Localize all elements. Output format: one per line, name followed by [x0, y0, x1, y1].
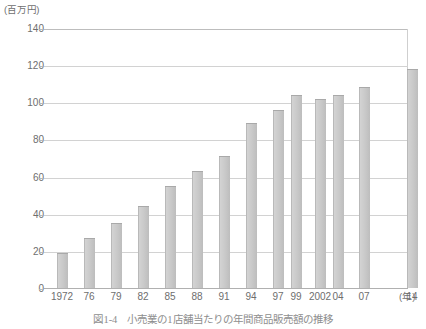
y-axis-tick-label: 0 — [4, 284, 44, 294]
y-axis-unit-label: (百万円) — [4, 2, 39, 16]
bar — [138, 206, 149, 288]
y-axis-tick-label: 40 — [4, 210, 44, 220]
bar — [407, 69, 418, 288]
x-axis-tick-label: 04 — [332, 292, 343, 302]
bar — [219, 156, 230, 288]
bar — [165, 186, 176, 288]
bar — [315, 99, 326, 288]
x-axis-line — [44, 288, 408, 289]
x-axis-tick-label: 88 — [191, 292, 202, 302]
bar — [291, 95, 302, 288]
figure-container: (百万円) 020406080100120140 197276798285889… — [0, 0, 426, 329]
y-axis-tick-label: 100 — [4, 98, 44, 108]
x-axis-tick-label: 94 — [245, 292, 256, 302]
bar — [333, 95, 344, 288]
bar — [192, 171, 203, 288]
bar — [359, 87, 370, 288]
gridline — [44, 103, 408, 104]
x-axis-tick-label: 85 — [164, 292, 175, 302]
y-axis-tick-mark — [39, 66, 43, 67]
x-axis-tick-label: 2002 — [309, 292, 331, 302]
x-axis-unit-label: (年) — [399, 292, 415, 302]
plot-top-border — [44, 29, 408, 30]
bar — [84, 238, 95, 288]
x-axis-tick-label: 91 — [218, 292, 229, 302]
x-axis-tick-label: 07 — [358, 292, 369, 302]
y-axis-tick-mark — [39, 29, 43, 30]
y-axis-tick-label: 20 — [4, 247, 44, 257]
y-axis-tick-mark — [39, 289, 43, 290]
y-axis-tick-mark — [39, 178, 43, 179]
bar — [111, 223, 122, 288]
y-axis-tick-label: 140 — [4, 24, 44, 34]
gridline — [44, 140, 408, 141]
figure-caption: 図1-4 小売業の1店舗当たりの年間商品販売額の推移 — [0, 311, 426, 326]
x-axis-tick-label: 76 — [83, 292, 94, 302]
bar — [273, 110, 284, 288]
y-axis-tick-label: 120 — [4, 61, 44, 71]
y-axis-tick-mark — [39, 252, 43, 253]
x-axis-tick-label: 79 — [110, 292, 121, 302]
plot-area — [44, 29, 408, 289]
y-axis-tick-mark — [39, 215, 43, 216]
y-axis-tick-mark — [39, 103, 43, 104]
gridline — [44, 66, 408, 67]
x-axis-tick-label: 82 — [137, 292, 148, 302]
y-axis-tick-label: 60 — [4, 173, 44, 183]
bar — [57, 253, 68, 288]
x-axis-tick-label: 99 — [290, 292, 301, 302]
bar — [246, 123, 257, 288]
x-axis-tick-label: 97 — [272, 292, 283, 302]
y-axis-tick-mark — [39, 140, 43, 141]
x-axis-tick-label: 1972 — [51, 292, 73, 302]
y-axis-tick-label: 80 — [4, 135, 44, 145]
